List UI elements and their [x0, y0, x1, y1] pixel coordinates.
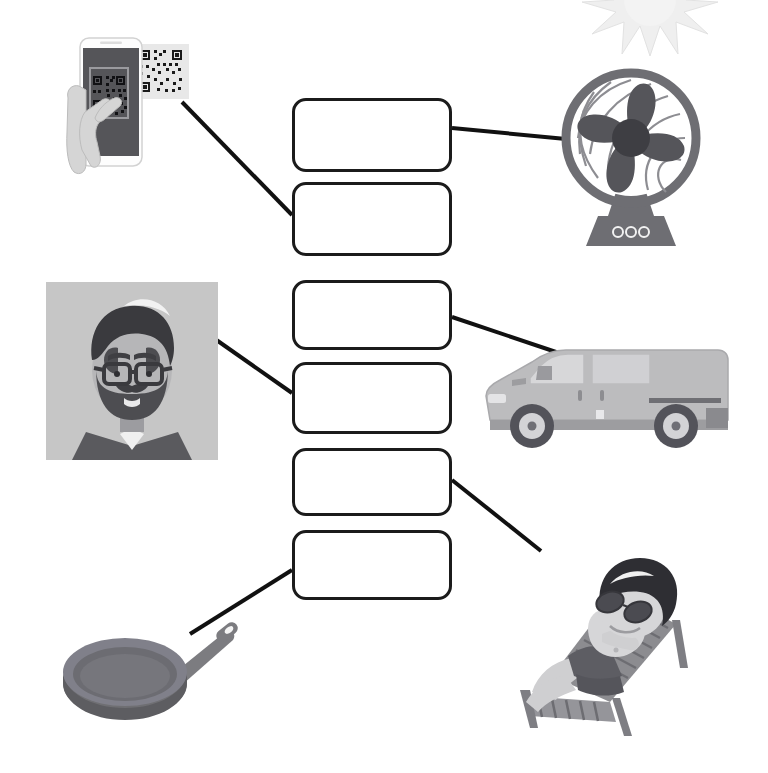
frying-pan-illustration — [55, 608, 255, 728]
answer-box-2-text — [295, 185, 449, 253]
delivery-van-illustration — [474, 336, 750, 452]
worksheet-page — [0, 0, 768, 773]
sunbather-illustration — [490, 550, 710, 740]
qr-phone-illustration — [62, 32, 197, 178]
answer-box-6[interactable] — [292, 530, 452, 600]
answer-box-3-text — [295, 283, 449, 347]
connector-box5-to-sunbather — [452, 480, 541, 551]
qr-code-scan-icon — [62, 32, 197, 178]
answer-box-1-text — [295, 101, 449, 169]
bearded-man-portrait — [46, 282, 218, 460]
table-fan-illustration — [558, 58, 704, 254]
answer-box-3[interactable] — [292, 280, 452, 350]
connector-man-to-box4 — [215, 339, 292, 393]
answer-box-6-text — [295, 533, 449, 597]
hipster-avatar-icon — [46, 282, 218, 460]
pan-body — [63, 638, 187, 720]
answer-box-4[interactable] — [292, 362, 452, 434]
electric-fan-icon — [558, 58, 704, 254]
connector-qr-to-box2 — [182, 102, 292, 215]
van-icon — [474, 336, 750, 452]
frying-pan-icon — [55, 608, 255, 728]
answer-box-5[interactable] — [292, 448, 452, 516]
man-on-deckchair-icon — [490, 550, 710, 740]
answer-box-5-text — [295, 451, 449, 513]
sun-illustration — [580, 0, 720, 56]
sun-icon — [580, 0, 720, 56]
answer-box-1[interactable] — [292, 98, 452, 172]
connector-box1-to-fan — [452, 128, 566, 139]
answer-box-2[interactable] — [292, 182, 452, 256]
answer-box-4-text — [295, 365, 449, 431]
